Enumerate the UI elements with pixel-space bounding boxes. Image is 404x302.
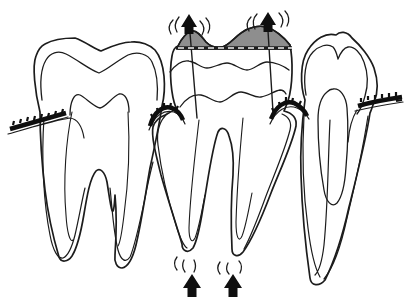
dental-diagram	[0, 0, 404, 302]
